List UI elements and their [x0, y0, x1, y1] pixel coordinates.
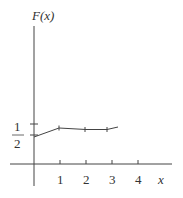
- x-tick-label-3: 3: [109, 172, 116, 187]
- x-axis-label: x: [157, 172, 164, 187]
- curve-F: [34, 127, 118, 137]
- x-tick-label-1: 1: [57, 172, 64, 187]
- half-denominator: 2: [14, 136, 21, 151]
- half-numerator: 1: [14, 119, 21, 134]
- chart-canvas: F(x) x 1 2 3 4 1 2: [0, 0, 183, 198]
- x-ticks: [60, 160, 138, 164]
- x-tick-label-2: 2: [83, 172, 90, 187]
- x-tick-label-4: 4: [135, 172, 142, 187]
- y-axis-label: F(x): [31, 8, 54, 23]
